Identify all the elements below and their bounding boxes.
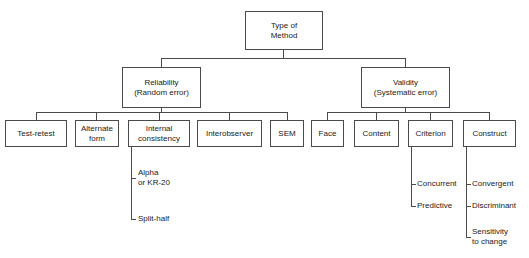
connector-tick-split-half: [131, 219, 136, 220]
connector-to-construct: [489, 112, 490, 120]
node-construct[interactable]: Construct: [463, 120, 516, 147]
connector-to-face: [327, 112, 328, 120]
leaf-convergent[interactable]: Convergent: [472, 179, 513, 189]
leaf-label-line1: Alpha: [138, 168, 170, 178]
node-content[interactable]: Content: [354, 120, 399, 147]
connector-root-stem: [283, 50, 284, 58]
node-label-line1: Content: [362, 129, 390, 139]
node-face[interactable]: Face: [311, 120, 344, 147]
node-label-line2: (Systematic error): [374, 88, 438, 98]
connector-construct-rail: [466, 147, 467, 237]
leaf-split-half[interactable]: Split-half: [138, 214, 169, 224]
node-test-retest[interactable]: Test-retest: [5, 120, 67, 147]
node-validity[interactable]: Validity (Systematic error): [361, 67, 450, 108]
leaf-label-line1: Predictive: [417, 201, 452, 211]
taxonomy-diagram: Type of Method Reliability (Random error…: [0, 0, 529, 258]
node-label-line1: Validity: [393, 78, 418, 88]
leaf-sensitivity-to-change[interactable]: Sensitivity to change: [472, 227, 508, 247]
leaf-label-line1: Concurrent: [417, 179, 457, 189]
node-label-line2: Method: [271, 31, 298, 41]
node-label-line1: Alternate: [81, 124, 113, 134]
node-interobserver[interactable]: Interobserver: [197, 120, 262, 147]
node-type-of-method[interactable]: Type of Method: [245, 11, 323, 50]
node-label-line1: SEM: [278, 129, 295, 139]
node-reliability[interactable]: Reliability (Random error): [122, 67, 201, 108]
node-sem[interactable]: SEM: [270, 120, 304, 147]
connector-tick-concurrent: [411, 184, 416, 185]
connector-tick-alpha: [131, 178, 136, 179]
connector-validity-children-bus: [327, 112, 490, 113]
leaf-discriminant[interactable]: Discriminant: [472, 201, 516, 211]
connector-to-internal-consistency: [159, 112, 160, 120]
node-label-line1: Interobserver: [206, 129, 253, 139]
node-label-line2: consistency: [138, 134, 180, 144]
node-alternate-form[interactable]: Alternate form: [75, 120, 119, 147]
node-label-line1: Criterion: [415, 129, 445, 139]
connector-to-interobserver: [229, 112, 230, 120]
connector-to-test-retest: [36, 112, 37, 120]
connector-to-content: [376, 112, 377, 120]
connector-level1-bus: [161, 58, 405, 59]
node-label-line1: Test-retest: [17, 129, 54, 139]
connector-criterion-rail: [411, 147, 412, 206]
node-internal-consistency[interactable]: Internal consistency: [128, 120, 190, 147]
leaf-label-line2: or KR-20: [138, 178, 170, 188]
connector-tick-predictive: [411, 206, 416, 207]
connector-internal-consistency-rail: [131, 147, 132, 219]
leaf-label-line1: Split-half: [138, 214, 169, 224]
leaf-label-line2: to change: [472, 237, 508, 247]
connector-to-criterion: [430, 112, 431, 120]
node-label-line1: Reliability: [144, 78, 178, 88]
leaf-label-line1: Convergent: [472, 179, 513, 189]
connector-tick-sensitivity: [466, 237, 471, 238]
leaf-alpha-kr20[interactable]: Alpha or KR-20: [138, 168, 170, 188]
leaf-label-line1: Discriminant: [472, 201, 516, 211]
connector-to-validity: [405, 58, 406, 67]
node-label-line1: Internal: [146, 124, 173, 134]
node-label-line1: Construct: [472, 129, 506, 139]
node-label-line2: (Random error): [134, 88, 189, 98]
node-label-line1: Face: [319, 129, 337, 139]
leaf-concurrent[interactable]: Concurrent: [417, 179, 457, 189]
leaf-predictive[interactable]: Predictive: [417, 201, 452, 211]
connector-reliability-children-bus: [36, 112, 287, 113]
connector-to-reliability: [161, 58, 162, 67]
node-label-line2: form: [89, 134, 105, 144]
connector-to-sem: [287, 112, 288, 120]
leaf-label-line1: Sensitivity: [472, 227, 508, 237]
connector-to-alternate-form: [96, 112, 97, 120]
connector-tick-discriminant: [466, 206, 471, 207]
node-criterion[interactable]: Criterion: [408, 120, 453, 147]
connector-tick-convergent: [466, 184, 471, 185]
node-label-line1: Type of: [271, 21, 297, 31]
